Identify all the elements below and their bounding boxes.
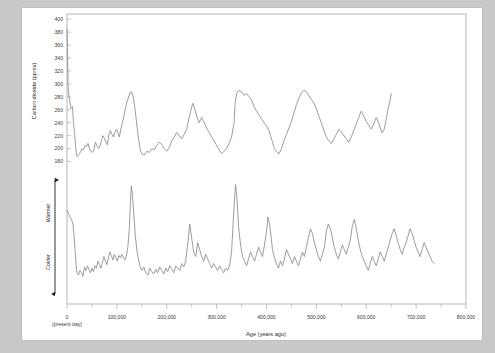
co2-data-line [67, 29, 391, 156]
co2-ytick-label: 400 [55, 16, 64, 22]
co2-ytick-label-group: 180200220240260280300320340360380400 [55, 16, 64, 164]
x-tick-label: 500,000 [307, 314, 326, 320]
co2-ytick-label: 320 [55, 68, 64, 74]
x-tick-label: 700,000 [407, 314, 426, 320]
chart-card: 180200220240260280300320340360380400 Car… [22, 8, 482, 340]
co2-axis-title: Carbon dioxide (ppmv) [31, 63, 37, 120]
co2-ytick-label: 340 [55, 55, 64, 61]
co2-ytick-label: 360 [55, 42, 64, 48]
colder-label: Colder [45, 254, 51, 270]
x-tick-label: 100,000 [108, 314, 127, 320]
co2-ytick-label: 300 [55, 81, 64, 87]
co2-ytick-label: 380 [55, 29, 64, 35]
x-major-tick-group [67, 304, 466, 309]
x-tick-label: 300,000 [207, 314, 226, 320]
x-tick-label: 600,000 [357, 314, 376, 320]
present-day-note: (present day) [52, 321, 82, 327]
co2-ytick-label: 240 [55, 120, 64, 126]
temperature-data-line [67, 185, 434, 277]
warmer-colder-arrow: Warmer Colder [45, 180, 55, 294]
carbon-dioxide-panel: 180200220240260280300320340360380400 Car… [31, 14, 466, 168]
warmer-label: Warmer [45, 203, 51, 222]
co2-ytick-label: 260 [55, 107, 64, 113]
x-tick-label: 200,000 [158, 314, 177, 320]
x-tick-label: 400,000 [257, 314, 276, 320]
paleoclimate-chart: 180200220240260280300320340360380400 Car… [22, 8, 482, 340]
temperature-panel: Warmer Colder [45, 168, 466, 304]
co2-ytick-label: 220 [55, 133, 64, 139]
x-axis: 0100,000200,000300,000400,000500,000600,… [52, 304, 475, 337]
figure-root: 180200220240260280300320340360380400 Car… [0, 0, 495, 353]
co2-ytick-label: 180 [55, 158, 64, 164]
x-tick-label-group: 0100,000200,000300,000400,000500,000600,… [66, 314, 476, 320]
co2-ytick-label: 200 [55, 145, 64, 151]
co2-ytick-label: 280 [55, 94, 64, 100]
x-tick-label: 0 [66, 314, 69, 320]
x-axis-title: Age (years ago) [246, 331, 286, 337]
x-tick-label: 800,000 [457, 314, 476, 320]
